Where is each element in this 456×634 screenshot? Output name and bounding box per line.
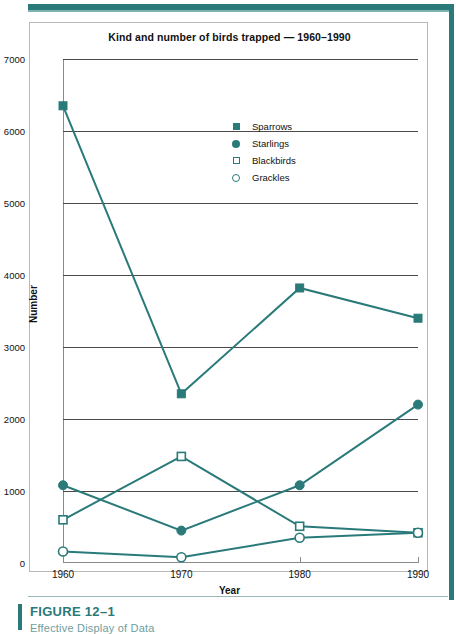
open-square-icon — [229, 157, 243, 164]
data-point-sparrows-1990 — [414, 314, 422, 322]
data-point-grackles-1980 — [295, 533, 304, 542]
legend-item-blackbirds: Blackbirds — [229, 153, 296, 168]
y-tick-label: 1000 — [4, 486, 25, 497]
legend-item-starlings: Starlings — [229, 136, 296, 151]
legend-label: Starlings — [252, 138, 289, 149]
y-axis-tick-labels: 01000200030004000500060007000 — [0, 59, 25, 563]
x-tick-label: 1980 — [289, 569, 311, 580]
chart-title: Kind and number of birds trapped — 1960–… — [30, 31, 429, 43]
y-tick-label: 3000 — [4, 342, 25, 353]
chart-legend: Sparrows Starlings Blackbirds Grackles — [229, 119, 296, 187]
data-point-grackles-1970 — [177, 553, 186, 562]
y-tick-label: 4000 — [4, 270, 25, 281]
legend-item-sparrows: Sparrows — [229, 119, 296, 134]
figure-box: Kind and number of birds trapped — 1960–… — [29, 22, 428, 572]
y-tick-label: 7000 — [4, 54, 25, 65]
figure-subcaption: Effective Display of Data — [30, 622, 155, 634]
x-tick-label: 1960 — [52, 569, 74, 580]
x-tick — [418, 557, 419, 563]
data-point-blackbirds-1970 — [177, 452, 185, 460]
y-tick-label: 5000 — [4, 198, 25, 209]
x-tick-label: 1970 — [170, 569, 192, 580]
y-tick-label: 2000 — [4, 414, 25, 425]
x-axis-title: Year — [30, 585, 429, 596]
y-axis-title: Number — [28, 285, 39, 323]
series-line-blackbirds — [63, 456, 418, 532]
top-teal-rule-shadow — [28, 10, 452, 12]
data-point-starlings-1970 — [177, 526, 186, 535]
data-point-starlings-1960 — [59, 481, 68, 490]
x-tick-label: 1990 — [407, 569, 429, 580]
filled-circle-icon — [229, 140, 243, 148]
caption-teal-marker — [18, 604, 22, 630]
legend-label: Sparrows — [252, 121, 292, 132]
y-tick-label: 0 — [20, 558, 25, 569]
data-point-grackles-1960 — [59, 547, 68, 556]
caption-divider — [28, 596, 448, 597]
data-point-sparrows-1980 — [296, 284, 304, 292]
data-point-starlings-1980 — [295, 481, 304, 490]
figure-caption: FIGURE 12–1 — [30, 604, 115, 619]
data-point-blackbirds-1980 — [296, 522, 304, 530]
data-point-sparrows-1970 — [177, 390, 185, 398]
data-point-starlings-1990 — [414, 400, 423, 409]
data-point-sparrows-1960 — [59, 102, 67, 110]
series-line-starlings — [63, 405, 418, 531]
legend-label: Grackles — [252, 172, 289, 183]
legend-label: Blackbirds — [252, 155, 296, 166]
right-teal-rule — [449, 4, 454, 600]
x-axis-tick-labels: 1960197019801990 — [63, 569, 418, 583]
data-point-blackbirds-1960 — [59, 516, 67, 524]
series-line-grackles — [63, 533, 418, 557]
open-circle-icon — [229, 174, 243, 182]
y-tick-label: 6000 — [4, 126, 25, 137]
legend-item-grackles: Grackles — [229, 170, 296, 185]
filled-square-icon — [229, 123, 243, 130]
data-point-grackles-1990 — [414, 528, 423, 537]
